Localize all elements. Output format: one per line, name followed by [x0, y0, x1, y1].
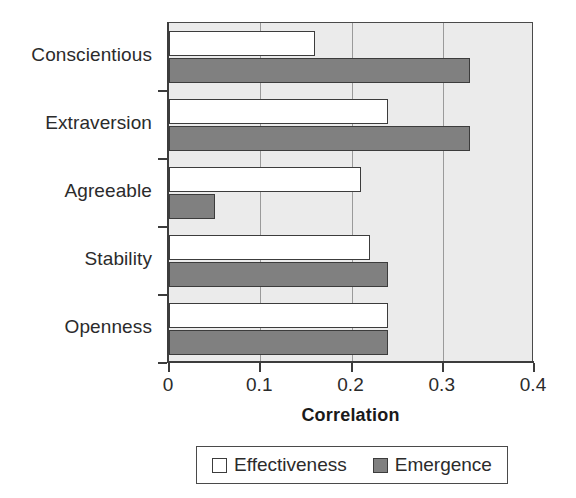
- y-axis-tick: [158, 226, 167, 228]
- plot-area: [168, 22, 533, 362]
- y-axis-category-label: Agreeable: [0, 180, 152, 202]
- legend-label-effectiveness: Effectiveness: [234, 454, 347, 476]
- x-axis-tick-label: 0.2: [321, 374, 381, 396]
- legend-label-emergence: Emergence: [395, 454, 492, 476]
- category-band: [169, 295, 532, 363]
- x-axis-tick-label: 0.3: [412, 374, 472, 396]
- y-axis-category-label: Openness: [0, 316, 152, 338]
- bar-effectiveness-extraversion: [169, 99, 388, 124]
- white-square-icon: [212, 458, 227, 473]
- x-axis-tick: [168, 363, 170, 372]
- chart-legend: Effectiveness Emergence: [196, 446, 508, 484]
- bar-emergence-openness: [169, 330, 388, 355]
- y-axis-tick: [158, 362, 167, 364]
- legend-item-emergence[interactable]: Emergence: [373, 454, 492, 476]
- gray-square-icon: [373, 458, 388, 473]
- category-band: [169, 159, 532, 227]
- category-band: [169, 23, 532, 91]
- y-axis-category-label: Conscientious: [0, 44, 152, 66]
- x-axis-tick: [533, 363, 535, 372]
- bar-emergence-conscientious: [169, 58, 470, 83]
- y-axis-category-label: Stability: [0, 248, 152, 270]
- x-axis-tick: [442, 363, 444, 372]
- x-axis-tick-label: 0.1: [229, 374, 289, 396]
- y-axis-tick: [158, 294, 167, 296]
- bar-emergence-extraversion: [169, 126, 470, 151]
- x-axis-tick: [259, 363, 261, 372]
- x-axis-title: Correlation: [168, 405, 533, 426]
- bar-effectiveness-openness: [169, 303, 388, 328]
- category-band: [169, 91, 532, 159]
- x-axis-tick-label: 0.4: [503, 374, 563, 396]
- x-axis-tick: [351, 363, 353, 372]
- bar-effectiveness-stability: [169, 235, 370, 260]
- bar-emergence-agreeable: [169, 194, 215, 219]
- y-axis-line: [167, 22, 169, 363]
- bar-emergence-stability: [169, 262, 388, 287]
- y-axis-tick: [158, 158, 167, 160]
- bar-effectiveness-conscientious: [169, 31, 315, 56]
- category-band: [169, 227, 532, 295]
- legend-item-effectiveness[interactable]: Effectiveness: [212, 454, 347, 476]
- y-axis-tick: [158, 90, 167, 92]
- x-axis-tick-label: 0: [138, 374, 198, 396]
- bar-chart: 00.10.20.30.4ConscientiousExtraversionAg…: [0, 0, 576, 498]
- bar-effectiveness-agreeable: [169, 167, 361, 192]
- y-axis-category-label: Extraversion: [0, 112, 152, 134]
